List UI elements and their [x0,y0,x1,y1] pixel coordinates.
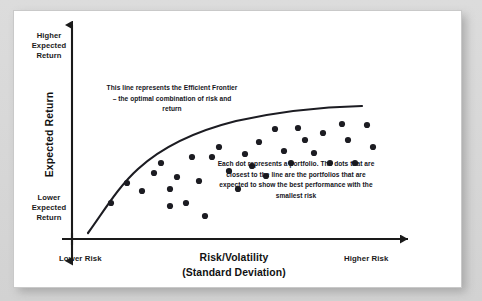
portfolio-dot [167,186,173,192]
portfolio-dot [364,122,370,128]
portfolio-dot [209,154,215,160]
portfolio-dot [295,125,301,131]
portfolio-dot [183,200,189,206]
portfolio-dots-note: Each dot represents a portfolio. The dot… [217,159,375,202]
y-axis-high-label: Higher Expected Return [22,31,76,61]
portfolio-dot [167,203,173,209]
portfolio-dot [256,139,262,145]
portfolio-dot [196,178,202,184]
x-axis-title-line2: (Standard Deviation) [134,266,334,281]
portfolio-dot [302,137,308,143]
portfolio-dot [108,200,114,206]
portfolio-dot [272,126,278,132]
x-axis-title-line1: Risk/Volatility [134,251,334,266]
efficient-frontier-figure [14,11,463,289]
portfolio-dot [189,154,195,160]
portfolio-dot [139,188,145,194]
portfolio-dot [311,150,317,156]
portfolio-dot [339,121,345,127]
portfolio-dot [158,160,164,166]
portfolio-dot [202,213,208,219]
portfolio-dot [281,148,287,154]
chart-card: Higher Expected Return Lower Expected Re… [13,10,462,288]
portfolio-dot [174,174,180,180]
x-axis-title: Risk/Volatility (Standard Deviation) [134,251,334,281]
portfolio-dot [242,151,248,157]
efficient-frontier-note: This line represents the Efficient Front… [106,83,238,115]
chart-plot-area: Higher Expected Return Lower Expected Re… [14,11,463,289]
portfolio-dot [124,180,130,186]
x-axis-high-label: Higher Risk [344,254,388,264]
x-axis-low-label: Lower Risk [59,254,102,264]
portfolio-dot [320,130,326,136]
y-axis-title: Expected Return [44,67,55,203]
portfolio-dot [370,144,376,150]
portfolio-dot [345,137,351,143]
portfolio-dot [216,144,222,150]
portfolio-dot [151,170,157,176]
